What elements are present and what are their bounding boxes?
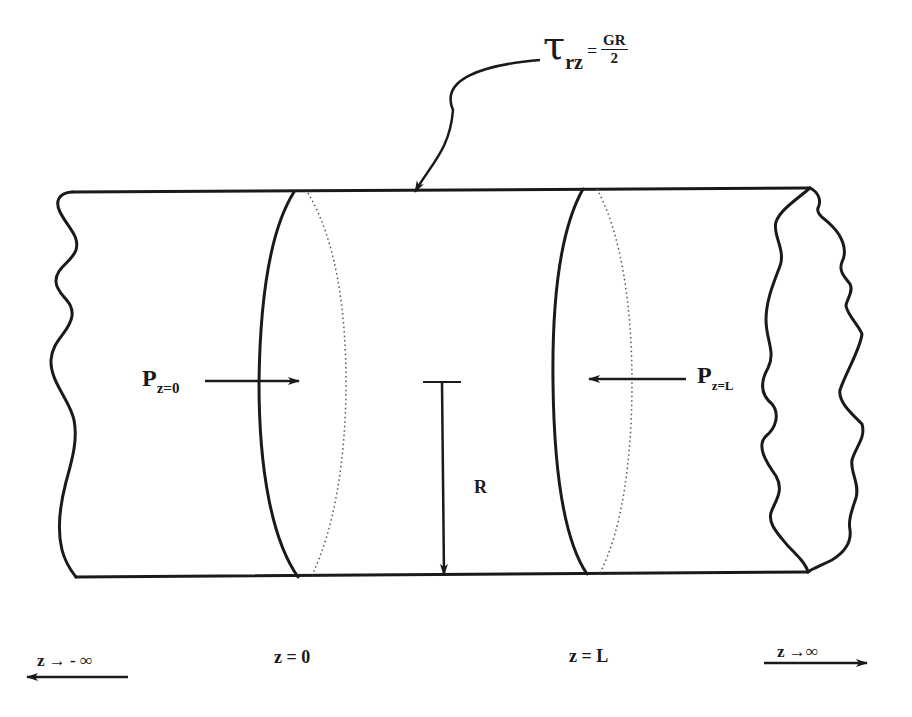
tube-diagram (0, 0, 912, 717)
left-break-edge (51, 192, 77, 577)
fraction-numerator: GR (601, 32, 628, 50)
shear-stress-label: τrz = GR 2 (543, 22, 628, 73)
outlet-pressure-symbol: P (697, 362, 712, 388)
radius-arrow (442, 382, 444, 575)
tube-top-wall (72, 188, 810, 192)
right-break-edge-outer (808, 188, 863, 572)
equals-sign: = (587, 41, 597, 61)
inlet-pressure-symbol: P (142, 365, 157, 391)
right-limit-label: z →∞ (777, 642, 818, 662)
inlet-cross-section-back (308, 193, 346, 575)
outlet-position-label: z = L (569, 646, 608, 667)
outlet-cross-section-back (597, 189, 632, 573)
outlet-pressure-label: Pz=L (697, 362, 734, 389)
right-break-edge-inner (762, 188, 810, 572)
outlet-cross-section-front (553, 189, 587, 574)
tau-subscript: rz (565, 51, 583, 73)
fraction-denominator: 2 (601, 50, 628, 67)
tube-bottom-wall (76, 572, 808, 577)
outlet-pressure-subscript: z=L (712, 378, 734, 393)
inlet-position-label: z = 0 (274, 647, 310, 668)
left-limit-label: z → - ∞ (37, 651, 92, 671)
tau-symbol: τ (543, 22, 565, 68)
inlet-pressure-label: Pz=0 (142, 365, 179, 392)
inlet-cross-section-front (259, 192, 298, 577)
hidden-arcs (308, 189, 632, 575)
shear-stress-leader-arrow (415, 60, 540, 192)
radius-label: R (474, 477, 487, 498)
shear-stress-fraction: GR 2 (601, 32, 628, 67)
inlet-pressure-subscript: z=0 (157, 380, 180, 396)
